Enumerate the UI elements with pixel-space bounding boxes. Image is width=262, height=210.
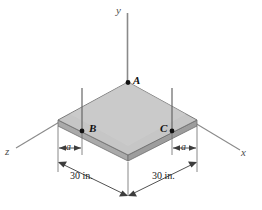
point-label-b: B — [89, 123, 96, 134]
dim-a-right-arrow-start — [173, 145, 180, 151]
dimension-label-span-right: 30 in. — [152, 171, 175, 181]
diagram-svg — [0, 0, 262, 210]
point-label-c: C — [160, 123, 167, 134]
dim-a-right-arrow-end — [189, 145, 196, 151]
dimension-label-span-left: 30 in. — [70, 171, 93, 181]
dim-a-left-arrow-end — [74, 145, 81, 151]
dim-span-left-arrow-start — [58, 162, 67, 168]
point-label-a: A — [133, 75, 140, 86]
dim-span-right-arrow-end — [188, 162, 197, 168]
dim-a-left-arrow-start — [59, 145, 66, 151]
figure-canvas: y z x A B C a a 30 in. 30 in. — [0, 0, 262, 210]
y-axis-label: y — [116, 5, 121, 16]
point-marker-b — [80, 129, 85, 134]
point-marker-a — [126, 80, 131, 85]
x-axis-label: x — [241, 147, 246, 158]
point-marker-c — [170, 129, 175, 134]
dim-span-left-arrow-end — [119, 191, 128, 197]
dimension-label-a-right: a — [181, 142, 186, 152]
dim-span-right-arrow-start — [128, 191, 137, 197]
dimension-label-a-left: a — [66, 142, 71, 152]
z-axis-label: z — [5, 146, 9, 157]
